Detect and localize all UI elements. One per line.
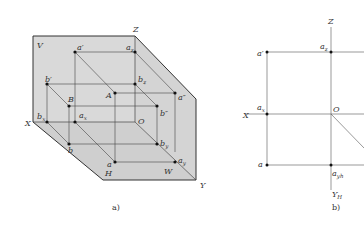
figure-a: V W H Z X Y O a′ az b′ bz A a″ B b″ bx a… (24, 25, 206, 212)
label-b-dprime: b″ (160, 109, 168, 118)
label-axis-y: Y (200, 181, 206, 190)
label-b-a-prime: a′ (257, 49, 264, 58)
caption-b: b) (332, 203, 340, 212)
label-plane-h: H (104, 169, 113, 178)
label-a-dprime: a″ (178, 93, 186, 102)
label-origin: O (138, 117, 145, 126)
label-axis-z: Z (132, 25, 139, 34)
label-b-axis-z: Z (327, 17, 334, 26)
label-a: a (107, 160, 112, 169)
caption-a: a) (112, 203, 120, 212)
figure-b: Z X O a′ az ax a ayh YH b) (242, 17, 364, 212)
label-b-axis-yh: YH (332, 190, 342, 200)
label-a-prime: a′ (77, 43, 84, 52)
label-b-a: a (258, 160, 263, 169)
projection-diagram: V W H Z X Y O a′ az b′ bz A a″ B b″ bx a… (0, 0, 364, 228)
label-b-a-x: ax (257, 103, 266, 113)
label-b-axis-x: X (242, 111, 249, 120)
label-B: B (67, 95, 74, 104)
label-axis-x: X (24, 119, 31, 128)
label-plane-w: W (164, 167, 173, 176)
label-b: b (68, 146, 73, 155)
label-b-origin: O (333, 105, 340, 114)
label-b-prime: b′ (45, 75, 52, 84)
label-b-a-z: az (320, 42, 328, 52)
label-b-a-yh: ayh (332, 169, 344, 180)
label-A: A (105, 91, 112, 100)
